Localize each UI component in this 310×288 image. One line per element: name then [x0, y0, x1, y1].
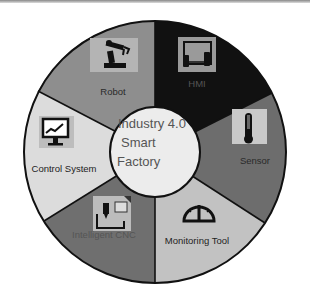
label-robot: Robot [100, 86, 126, 97]
robot-arm-icon [90, 38, 138, 72]
touchscreen-hands-icon [178, 37, 216, 72]
industry-wheel-diagram: Industry 4.0 Smart Factory HMI Sensor Mo… [0, 0, 310, 288]
label-sensor: Sensor [240, 155, 270, 166]
thermometer-icon [232, 109, 267, 144]
label-monitoring-tool: Monitoring Tool [165, 235, 229, 246]
label-control-system: Control System [32, 163, 97, 174]
center-line-2: Smart [121, 135, 156, 150]
monitor-chart-icon [39, 116, 74, 148]
label-intelligent-cnc: Intelligent CNC [72, 229, 136, 240]
cnc-machine-icon [93, 196, 131, 231]
label-hmi: HMI [188, 78, 205, 89]
center-line-1: Industry 4.0 [118, 116, 186, 131]
center-line-3: Factory [117, 154, 161, 169]
